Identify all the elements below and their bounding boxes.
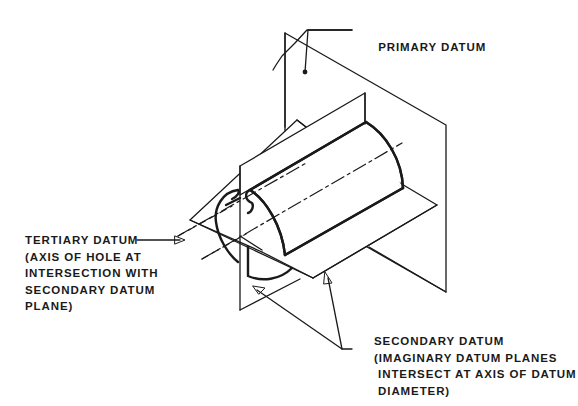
secondary-datum-leader bbox=[253, 272, 352, 349]
secondary-line3: INTERSECT AT AXIS OF DATUM bbox=[374, 368, 577, 380]
primary-datum-label: PRIMARY DATUM bbox=[370, 22, 486, 55]
tertiary-line3: INTERSECTION WITH bbox=[25, 267, 159, 279]
tertiary-line4: SECONDARY DATUM bbox=[25, 284, 155, 296]
tertiary-line5: PLANE) bbox=[25, 300, 73, 312]
secondary-line1: SECONDARY DATUM bbox=[374, 335, 504, 347]
secondary-line2: (IMAGINARY DATUM PLANES bbox=[374, 352, 557, 364]
tertiary-line1: TERTIARY DATUM bbox=[25, 234, 138, 246]
tertiary-datum-label: TERTIARY DATUM (AXIS OF HOLE AT INTERSEC… bbox=[25, 232, 159, 315]
tertiary-line2: (AXIS OF HOLE AT bbox=[25, 251, 142, 263]
secondary-datum-label: SECONDARY DATUM (IMAGINARY DATUM PLANES … bbox=[374, 333, 577, 399]
arrowhead-icon bbox=[253, 286, 265, 294]
secondary-line4: DIAMETER) bbox=[374, 385, 450, 397]
primary-datum-line1: PRIMARY DATUM bbox=[378, 41, 486, 53]
